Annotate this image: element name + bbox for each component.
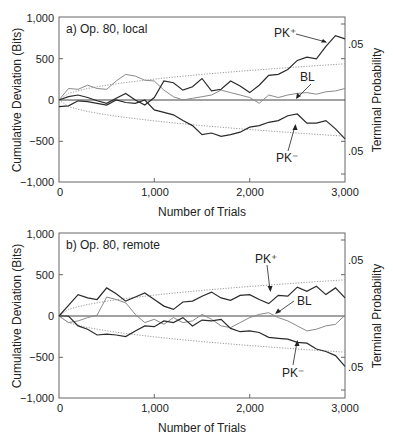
x-axis-title: Number of Trials [158, 205, 246, 219]
arrow-pk-plus [296, 34, 326, 42]
right-tick-label: .05 [348, 38, 363, 50]
xtick-label: 2,000 [236, 402, 264, 414]
ytick-label: 1,000 [26, 228, 54, 240]
arrowhead-icon [275, 309, 281, 315]
x-axis-title: Number of Trials [158, 421, 246, 435]
xtick-label: 1,000 [141, 186, 169, 198]
xtick-label: 0 [57, 186, 63, 198]
ytick-label: 500 [36, 53, 54, 65]
right-tick-label: .05 [348, 145, 363, 157]
y-axis-title: Cumulative Deviation (Bits) [10, 28, 24, 173]
figure: a) Op. 80, local 1,000 500 0 −500 −1,000… [0, 0, 393, 440]
right-axis-title: Terminal Probability [370, 48, 384, 153]
label-pk-minus: PK⁻ [276, 151, 298, 165]
y-ticks [59, 24, 345, 174]
xtick-label: 3,000 [331, 186, 359, 198]
label-pk-minus: PK⁻ [282, 366, 304, 380]
arrowhead-icon [268, 286, 273, 292]
ytick-label: 500 [36, 269, 54, 281]
y-axis-title: Cumulative Deviation (Bits) [10, 244, 24, 389]
ytick-label: 1,000 [26, 12, 54, 24]
xtick-label: 0 [57, 402, 63, 414]
ytick-label: −1,000 [20, 392, 54, 404]
chart-svg: a) Op. 80, local 1,000 500 0 −500 −1,000… [0, 0, 393, 440]
right-tick-label: .05 [348, 361, 363, 373]
label-bl: BL [297, 294, 312, 308]
right-tick-label: .05 [348, 254, 363, 266]
panel-title: b) Op. 80, remote [66, 238, 160, 252]
panel-b: b) Op. 80, remote 1,000 500 0 −500 −1,00… [10, 228, 384, 435]
xtick-label: 2,000 [236, 186, 264, 198]
arrowhead-icon [293, 124, 298, 130]
panel-a: a) Op. 80, local 1,000 500 0 −500 −1,000… [10, 12, 384, 219]
ytick-label: −1,000 [20, 176, 54, 188]
label-bl: BL [300, 70, 315, 84]
xtick-label: 1,000 [141, 402, 169, 414]
x-ticks [154, 178, 249, 182]
series-pk-minus [59, 100, 345, 139]
x-ticks [154, 394, 249, 398]
label-pk-plus: PK⁺ [255, 252, 277, 266]
xtick-label: 3,000 [331, 402, 359, 414]
ytick-label: −500 [29, 135, 54, 147]
label-pk-plus: PK⁺ [274, 26, 296, 40]
right-axis-title: Terminal Probability [370, 264, 384, 369]
ytick-label: 0 [48, 310, 54, 322]
ytick-label: −500 [29, 351, 54, 363]
panel-title: a) Op. 80, local [66, 22, 147, 36]
ytick-label: 0 [48, 94, 54, 106]
